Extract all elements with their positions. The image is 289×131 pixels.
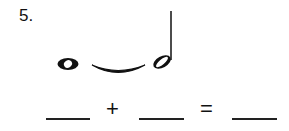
whole-note-icon <box>58 58 79 70</box>
music-notation <box>0 0 289 131</box>
answer-blank-1[interactable] <box>46 118 90 120</box>
tie-icon <box>92 65 145 73</box>
plus-sign: + <box>106 98 119 120</box>
answer-blank-3[interactable] <box>232 118 277 120</box>
equals-sign: = <box>200 98 213 120</box>
answer-blank-2[interactable] <box>139 118 184 120</box>
half-note-icon <box>151 11 173 71</box>
